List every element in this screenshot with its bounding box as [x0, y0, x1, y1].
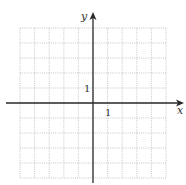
- y-axis-label: y: [80, 10, 88, 23]
- x-axis-label: x: [177, 104, 184, 117]
- x-tick-label-1: 1: [105, 107, 111, 118]
- y-tick-label-1: 1: [84, 83, 90, 94]
- coordinate-plane: x y 1 1: [0, 0, 186, 185]
